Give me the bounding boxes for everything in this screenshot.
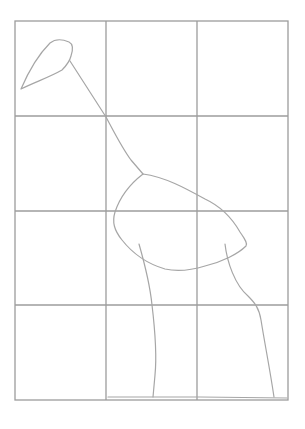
bird-sketch	[21, 40, 287, 398]
drawing-grid	[15, 21, 288, 400]
bird-left-leg	[139, 244, 156, 397]
bird-right-leg	[225, 244, 274, 397]
bird-head	[21, 40, 72, 89]
sketch-canvas	[0, 0, 305, 429]
